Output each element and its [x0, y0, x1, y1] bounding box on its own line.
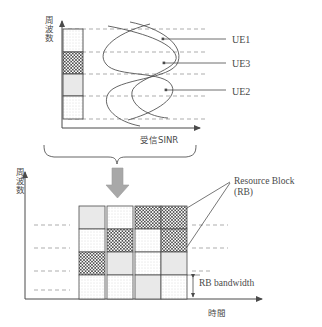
sinr-curve-ue1 [103, 24, 173, 120]
rb-cell-r3c3 [135, 252, 161, 275]
rb-cell-r2c4 [161, 229, 187, 252]
transform-down-arrow [106, 168, 129, 198]
rb-cell-r1c3 [135, 206, 161, 229]
rb-callout-leaders [187, 182, 230, 247]
rb-bandwidth-indicator [187, 275, 200, 297]
top-chart-frequency-bar [63, 29, 83, 119]
rb-cell-r2c1 [79, 229, 105, 252]
rb-cell-r4c2 [107, 275, 133, 299]
rb-cell-r2c2 [107, 229, 133, 252]
rb-cell-r1c4 [161, 206, 187, 229]
rb-cell-r4c4 [161, 275, 187, 299]
rb-cell-r1c1 [79, 206, 105, 229]
rb-cell-r3c4 [161, 252, 187, 275]
rb-cell-r4c1 [79, 275, 105, 299]
rb-cell-r4c3 [135, 275, 161, 299]
rb-cell-r2c3 [135, 229, 161, 252]
resource-block-grid [79, 206, 187, 299]
figure-vector-layer [0, 0, 322, 327]
rb-cell-r3c1 [79, 252, 105, 275]
grouping-brace [44, 145, 196, 164]
rb-callout-leader-bottom [187, 183, 230, 247]
rb-callout-leader-top [187, 182, 230, 208]
rb-cell-r3c2 [107, 252, 133, 275]
rb-cell-r1c2 [107, 206, 133, 229]
figure-root: 周波数 受信SINR UE1 UE3 UE2 周波数 時間 Resource B… [0, 0, 322, 327]
